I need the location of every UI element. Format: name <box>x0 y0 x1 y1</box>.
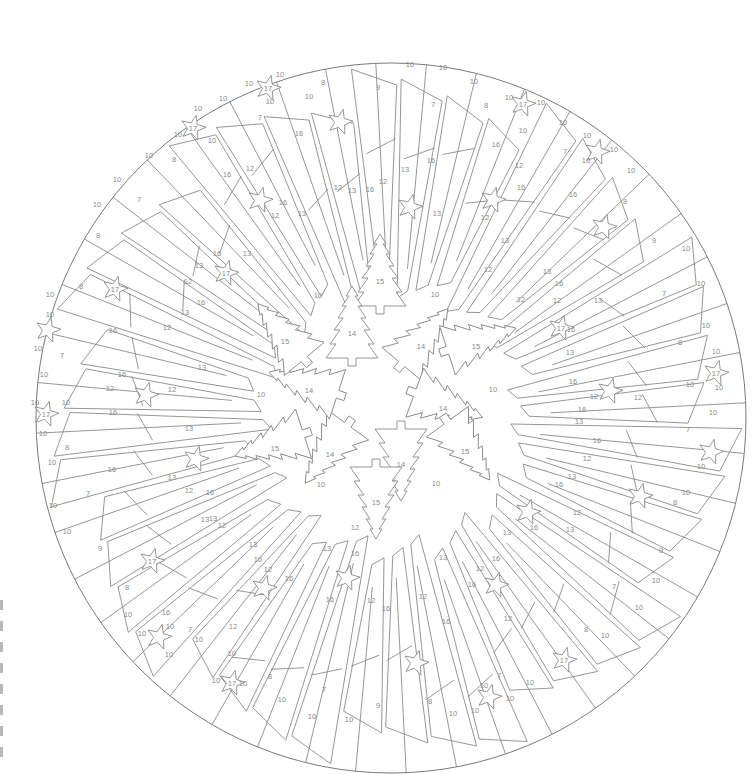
star-icon <box>485 572 509 597</box>
region-number: 16 <box>223 170 231 179</box>
region-number: 10 <box>702 321 710 330</box>
shard-line <box>431 73 476 263</box>
region-number: 16 <box>555 279 563 288</box>
region-number: 13 <box>323 544 331 553</box>
region-number: 10 <box>305 92 313 101</box>
region-number: 12 <box>271 211 279 220</box>
outer-circle <box>36 63 746 773</box>
shard-line <box>476 541 595 708</box>
shard-line <box>36 423 241 433</box>
region-number: 16 <box>517 183 525 192</box>
region-number: 12 <box>573 508 581 517</box>
region-number: 10 <box>709 408 717 417</box>
star-number: 17 <box>557 324 565 333</box>
region-number: 16 <box>162 608 170 617</box>
region-number: 13 <box>594 296 602 305</box>
region-number: 8 <box>584 625 588 634</box>
edge-mark <box>0 726 3 736</box>
region-number: 7 <box>662 289 666 298</box>
star-number: 17 <box>228 679 236 688</box>
star-number: 17 <box>111 285 119 294</box>
region-number: 8 <box>623 197 627 206</box>
region-number: 12 <box>106 384 114 393</box>
shard <box>351 69 396 278</box>
region-number: 12 <box>583 454 591 463</box>
region-number: 10 <box>537 98 545 107</box>
star-icon <box>482 187 506 212</box>
region-number: 10 <box>124 610 132 619</box>
star-icon <box>599 378 623 403</box>
shard-cut <box>539 211 570 218</box>
region-number: 10 <box>40 370 48 379</box>
region-number: 16 <box>492 140 500 149</box>
region-number: 10 <box>505 93 513 102</box>
region-number: 16 <box>578 405 586 414</box>
tree-number: 14 <box>305 386 313 395</box>
region-number: 13 <box>249 540 257 549</box>
region-number: 13 <box>439 553 447 562</box>
region-number: 12 <box>379 177 387 186</box>
region-number: 10 <box>601 631 609 640</box>
shard-line <box>468 111 570 289</box>
region-number: 10 <box>308 712 316 721</box>
region-number: 13 <box>298 209 306 218</box>
tree-number: 15 <box>372 498 380 507</box>
region-number: 12 <box>218 521 226 530</box>
gap-number: 10 <box>431 290 439 299</box>
region-number: 12 <box>246 164 254 173</box>
region-number: 8 <box>65 443 69 452</box>
region-number: 10 <box>145 151 153 160</box>
shard-line <box>230 102 316 266</box>
region-number: 16 <box>295 129 303 138</box>
region-number: 10 <box>697 462 705 471</box>
region-number: 10 <box>46 290 54 299</box>
star-icon <box>399 194 423 219</box>
region-number: 9 <box>652 236 656 245</box>
region-number: 10 <box>166 622 174 631</box>
shard-cut <box>252 149 274 176</box>
region-number: 10 <box>34 344 42 353</box>
shard-cut <box>138 414 153 441</box>
shard-cut <box>188 588 218 599</box>
region-number: 7 <box>322 685 326 694</box>
region-number: 10 <box>278 695 286 704</box>
region-number: 9 <box>376 701 380 710</box>
region-number: 13 <box>209 514 217 523</box>
region-number: 8 <box>125 583 129 592</box>
shard-cut <box>442 148 475 154</box>
region-number: 16 <box>555 480 563 489</box>
region-number: 16 <box>279 198 287 207</box>
region-number: 12 <box>185 486 193 495</box>
region-number: 7 <box>431 100 435 109</box>
region-number: 13 <box>568 472 576 481</box>
shard-line <box>75 485 257 579</box>
region-number: 10 <box>49 501 57 510</box>
region-number: 9 <box>376 83 380 92</box>
region-number: 10 <box>406 60 414 69</box>
region-number: 16 <box>326 595 334 604</box>
region-number: 7 <box>497 671 501 680</box>
region-number: 10 <box>519 126 527 135</box>
region-number: 10 <box>470 77 478 86</box>
edge-mark <box>0 621 3 631</box>
region-number: 12 <box>504 614 512 623</box>
shard-cut <box>134 451 153 476</box>
region-number: 12 <box>334 183 342 192</box>
region-number: 12 <box>264 565 272 574</box>
tree-number: 14 <box>417 342 425 351</box>
region-number: 10 <box>93 200 101 209</box>
tree-number: 15 <box>281 337 289 346</box>
region-number: 12 <box>590 392 598 401</box>
shard-cut <box>124 491 147 515</box>
region-number: 13 <box>501 236 509 245</box>
region-number: 7 <box>686 425 690 434</box>
shard-cut <box>504 200 535 202</box>
region-number: 16 <box>530 523 538 532</box>
star-number: 17 <box>264 84 272 93</box>
region-number: 12 <box>476 564 484 573</box>
region-number: 12 <box>484 265 492 274</box>
coloring-page: 151414151415141514151415101010101010 171… <box>0 0 752 774</box>
region-number: 10 <box>276 70 284 79</box>
region-number: 16 <box>206 488 214 497</box>
region-number: 12 <box>634 393 642 402</box>
